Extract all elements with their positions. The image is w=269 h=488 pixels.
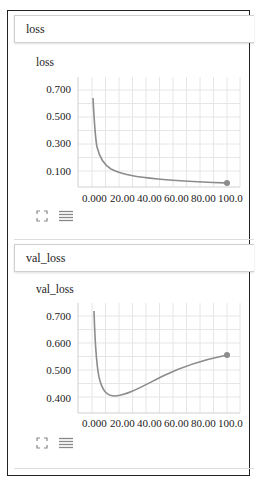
- fullscreen-icon[interactable]: [36, 210, 48, 222]
- fullscreen-icon[interactable]: [36, 437, 48, 449]
- loss-card-header[interactable]: loss: [14, 15, 254, 43]
- loss-endpoint-marker[interactable]: [224, 180, 230, 186]
- val-loss-endpoint-marker[interactable]: [224, 352, 230, 358]
- loss-x-tick: 0.000: [82, 192, 107, 204]
- val-loss-card-header[interactable]: val_loss: [14, 244, 254, 272]
- loss-x-tick: 100.0: [218, 192, 243, 204]
- loss-y-tick: 0.100: [31, 165, 71, 177]
- val-loss-y-tick: 0.700: [31, 310, 71, 322]
- val-loss-x-tick: 60.00: [164, 417, 189, 429]
- loss-y-tick: 0.700: [31, 83, 71, 95]
- loss-x-tick: 20.00: [110, 192, 135, 204]
- data-table-icon[interactable]: [59, 210, 73, 222]
- panel-divider: [14, 239, 254, 240]
- val-loss-y-tick: 0.600: [31, 337, 71, 349]
- val-loss-x-tick: 100.0: [218, 417, 243, 429]
- tensorboard-scalars-panel: loss loss 0.700 0.500 0.300 0.100 0.000 …: [7, 10, 250, 476]
- val-loss-x-tick: 0.000: [82, 417, 107, 429]
- val-loss-chart-title: val_loss: [36, 283, 74, 295]
- loss-card-title: loss: [26, 22, 45, 37]
- val-loss-y-tick: 0.400: [31, 392, 71, 404]
- val-loss-y-tick: 0.500: [31, 364, 71, 376]
- val-loss-x-tick: 20.00: [110, 417, 135, 429]
- val-loss-line-chart[interactable]: [78, 303, 242, 415]
- panel-divider: [14, 468, 254, 469]
- data-table-icon[interactable]: [59, 437, 73, 449]
- loss-x-tick: 80.00: [191, 192, 216, 204]
- loss-y-tick: 0.500: [31, 110, 71, 122]
- val-loss-card-title: val_loss: [26, 251, 65, 266]
- loss-x-tick: 40.00: [137, 192, 162, 204]
- loss-x-tick: 60.00: [164, 192, 189, 204]
- loss-y-tick: 0.300: [31, 137, 71, 149]
- val-loss-x-tick: 80.00: [191, 417, 216, 429]
- val-loss-x-tick: 40.00: [137, 417, 162, 429]
- loss-chart-title: loss: [36, 56, 54, 68]
- loss-line-chart[interactable]: [78, 77, 242, 189]
